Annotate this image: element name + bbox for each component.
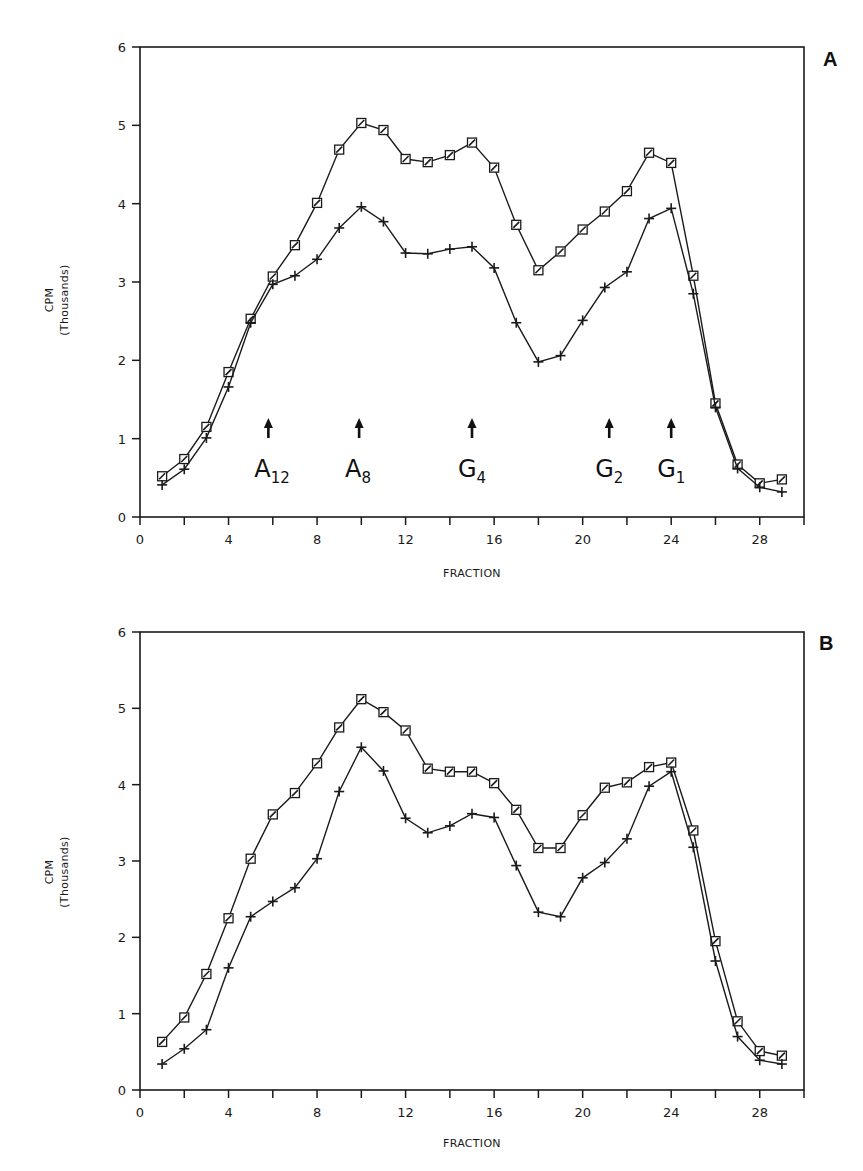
data-point-square bbox=[667, 758, 676, 767]
data-point-square bbox=[667, 158, 676, 167]
data-point-square bbox=[290, 789, 299, 798]
data-point-square bbox=[313, 759, 322, 768]
data-point-plus bbox=[378, 217, 388, 227]
y-tick-label: 6 bbox=[118, 40, 126, 55]
data-point-square bbox=[268, 810, 277, 819]
data-point-plus bbox=[710, 956, 720, 966]
data-point-plus bbox=[157, 1059, 167, 1069]
figure: A CPM (Thousands) FRACTION 0123456048121… bbox=[0, 0, 863, 1171]
data-point-square bbox=[689, 826, 698, 835]
annotation-subscript: 2 bbox=[614, 469, 624, 487]
data-point-square bbox=[180, 455, 189, 464]
series-line-square bbox=[162, 699, 782, 1055]
annotation-a8: A8 bbox=[345, 418, 371, 487]
annotation-subscript: 1 bbox=[676, 469, 686, 487]
data-point-plus bbox=[556, 912, 566, 922]
plot-frame bbox=[140, 47, 804, 517]
data-point-square bbox=[445, 767, 454, 776]
y-tick-label: 2 bbox=[118, 353, 126, 368]
series-line-plus bbox=[162, 747, 782, 1064]
data-point-square bbox=[534, 266, 543, 275]
data-point-plus bbox=[777, 487, 787, 497]
arrow-up-icon bbox=[605, 418, 614, 428]
data-point-square bbox=[224, 368, 233, 377]
data-point-square bbox=[622, 187, 631, 196]
data-point-plus bbox=[666, 203, 676, 213]
y-tick-label: 5 bbox=[118, 118, 126, 133]
annotation-g2: G2 bbox=[595, 418, 623, 487]
x-tick-label: 16 bbox=[486, 1105, 503, 1120]
data-point-square bbox=[490, 163, 499, 172]
data-point-square bbox=[622, 778, 631, 787]
data-point-plus bbox=[511, 318, 521, 328]
annotation-a12: A12 bbox=[254, 418, 290, 487]
data-point-plus bbox=[334, 787, 344, 797]
data-point-square bbox=[600, 207, 609, 216]
annotation-subscript: 4 bbox=[477, 469, 487, 487]
data-point-plus bbox=[423, 828, 433, 838]
panel-label: B bbox=[819, 632, 833, 654]
x-tick-label: 20 bbox=[574, 532, 591, 547]
y-axis-subtitle: (Thousands) bbox=[58, 836, 71, 907]
annotation-label: G4 bbox=[458, 455, 486, 487]
data-point-square bbox=[468, 767, 477, 776]
data-point-square bbox=[645, 148, 654, 157]
data-point-square bbox=[202, 969, 211, 978]
data-point-square bbox=[468, 138, 477, 147]
annotation-subscript: 12 bbox=[271, 469, 290, 487]
data-point-square bbox=[357, 695, 366, 704]
data-point-square bbox=[512, 805, 521, 814]
data-point-square bbox=[401, 726, 410, 735]
data-point-plus bbox=[445, 244, 455, 254]
y-tick-label: 3 bbox=[118, 275, 126, 290]
data-point-square bbox=[180, 1013, 189, 1022]
data-point-plus bbox=[201, 433, 211, 443]
data-point-square bbox=[534, 844, 543, 853]
x-tick-label: 0 bbox=[136, 532, 144, 547]
x-tick-label: 0 bbox=[136, 1105, 144, 1120]
data-point-square bbox=[290, 241, 299, 250]
y-axis-title: CPM bbox=[43, 860, 56, 885]
x-tick-label: 28 bbox=[751, 1105, 768, 1120]
data-point-plus bbox=[224, 382, 234, 392]
y-tick-label: 0 bbox=[118, 1083, 126, 1098]
x-tick-label: 24 bbox=[663, 532, 680, 547]
data-point-plus bbox=[533, 357, 543, 367]
data-point-plus bbox=[511, 861, 521, 871]
y-tick-label: 3 bbox=[118, 854, 126, 869]
data-point-square bbox=[777, 1051, 786, 1060]
data-point-plus bbox=[622, 267, 632, 277]
data-point-square bbox=[357, 118, 366, 127]
data-point-plus bbox=[246, 912, 256, 922]
x-axis-title: FRACTION bbox=[443, 1137, 501, 1150]
plot-frame bbox=[140, 632, 804, 1090]
x-tick-label: 4 bbox=[224, 1105, 232, 1120]
data-point-square bbox=[423, 764, 432, 773]
data-point-square bbox=[445, 151, 454, 160]
data-point-plus bbox=[644, 214, 654, 224]
data-point-square bbox=[335, 723, 344, 732]
x-tick-label: 16 bbox=[486, 532, 503, 547]
data-point-square bbox=[645, 763, 654, 772]
y-tick-label: 6 bbox=[118, 625, 126, 640]
data-point-square bbox=[777, 475, 786, 484]
data-point-square bbox=[335, 145, 344, 154]
data-point-plus bbox=[578, 873, 588, 883]
x-tick-label: 20 bbox=[574, 1105, 591, 1120]
y-axis-subtitle: (Thousands) bbox=[58, 264, 71, 335]
arrow-up-icon bbox=[667, 418, 676, 428]
data-point-square bbox=[512, 220, 521, 229]
data-point-square bbox=[689, 271, 698, 280]
y-tick-label: 1 bbox=[118, 1007, 126, 1022]
annotation-label: A12 bbox=[254, 455, 290, 487]
x-tick-label: 12 bbox=[397, 1105, 414, 1120]
annotation-g4: G4 bbox=[458, 418, 486, 487]
data-point-square bbox=[379, 708, 388, 717]
data-point-plus bbox=[423, 249, 433, 259]
data-point-plus bbox=[467, 809, 477, 819]
data-point-square bbox=[158, 472, 167, 481]
x-tick-label: 12 bbox=[397, 532, 414, 547]
annotation-label: A8 bbox=[345, 455, 371, 487]
data-point-square bbox=[578, 811, 587, 820]
data-point-plus bbox=[644, 781, 654, 791]
